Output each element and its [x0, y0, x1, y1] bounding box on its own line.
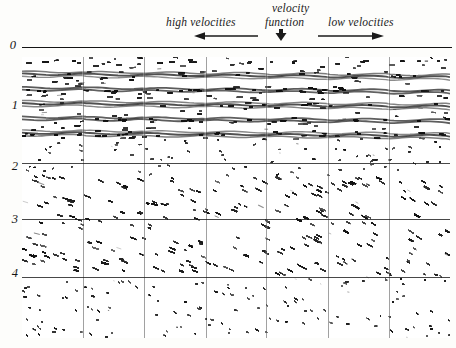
velocity-function-label-line2: function	[265, 16, 304, 28]
panel-divider-3	[266, 57, 267, 338]
axis-tick-3: 3	[4, 212, 18, 227]
panel-hline-1	[22, 219, 450, 220]
axis-tick-2: 2	[4, 159, 18, 174]
panel-divider-0	[83, 57, 84, 338]
panel-divider-2	[206, 57, 207, 338]
seismic-data-panel	[22, 57, 450, 338]
axis-tick-0: 0	[2, 38, 16, 53]
datum-line	[22, 47, 452, 48]
low-velocities-label: low velocities	[328, 16, 394, 28]
high-velocities-label: high velocities	[166, 16, 236, 28]
axis-tick-1: 1	[4, 98, 18, 113]
right-arrow-icon	[318, 28, 384, 46]
left-arrow-icon	[194, 28, 260, 46]
seismic-wiggle-trace-canvas	[22, 57, 450, 338]
panel-divider-4	[328, 57, 329, 338]
axis-tick-4: 4	[4, 266, 18, 281]
velocity-function-label-line1: velocity	[272, 2, 309, 14]
seismic-figure: velocity high velocities function low ve…	[0, 0, 456, 348]
panel-divider-5	[389, 57, 390, 338]
panel-divider-1	[144, 57, 145, 338]
panel-hline-0	[22, 163, 450, 164]
panel-hline-2	[22, 277, 450, 278]
down-arrow-icon	[274, 28, 288, 46]
